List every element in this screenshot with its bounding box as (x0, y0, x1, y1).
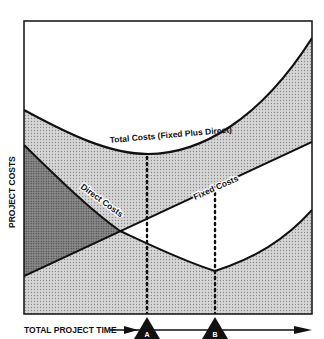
x-axis-arrowhead-icon (294, 326, 312, 334)
marker-a-label: A (144, 331, 149, 338)
arrow-into-a-icon (124, 326, 138, 334)
marker-b-label: B (212, 331, 217, 338)
cost-time-diagram: Total Costs (Fixed Plus Direct) Direct C… (0, 0, 324, 339)
marker-a: A (134, 317, 160, 339)
y-axis-label: PROJECT COSTS (7, 156, 17, 228)
x-axis-label: TOTAL PROJECT TIME (24, 325, 117, 335)
marker-b: B (202, 317, 228, 339)
